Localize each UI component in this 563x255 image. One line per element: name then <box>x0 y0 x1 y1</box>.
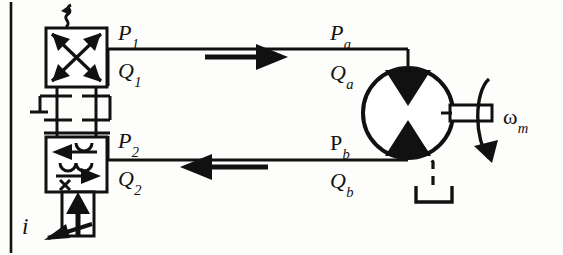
valve-port-block <box>30 87 110 137</box>
schematic-canvas <box>0 0 563 255</box>
label-pb: Pb <box>330 132 350 158</box>
valve-lower-box <box>46 137 107 192</box>
valve-upper-box <box>46 28 107 87</box>
label-pa: Pa <box>330 22 351 48</box>
flow-arrow-bottom-left <box>180 154 268 180</box>
label-p1: P1 <box>118 22 139 48</box>
hydraulic-schematic-diagram: P1 Q1 P2 Q2 Pa Qa Pb Qb i ωm <box>0 0 563 255</box>
label-qa: Qa <box>330 62 353 88</box>
label-input-current: i <box>22 215 28 242</box>
label-q2: Q2 <box>118 168 141 194</box>
return-line-bottom <box>107 136 408 180</box>
label-q1: Q1 <box>118 60 141 86</box>
motor-output-shaft <box>441 105 492 121</box>
supply-line-top <box>107 44 408 86</box>
hydraulic-motor <box>363 68 453 158</box>
label-omega-m: ωm <box>503 106 528 132</box>
label-qb: Qb <box>330 170 353 196</box>
valve-spring-symbol <box>61 4 71 27</box>
valve-actuator-solenoid <box>44 192 94 240</box>
label-p2: P2 <box>118 130 139 156</box>
reservoir-symbol <box>416 186 452 202</box>
